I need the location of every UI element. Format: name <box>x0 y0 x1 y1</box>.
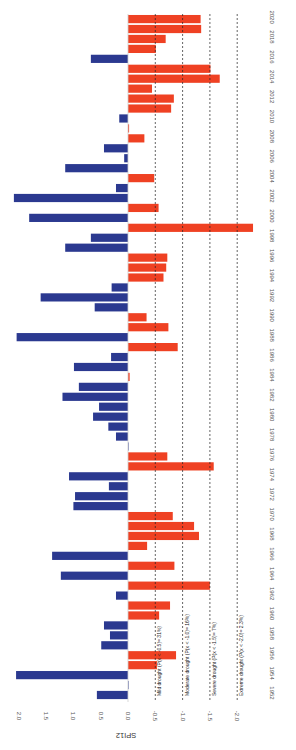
year-tick-label: 2008 <box>269 130 275 144</box>
spi-tick-label: -0.5 <box>152 711 158 722</box>
year-tick-label: 2014 <box>269 70 275 84</box>
bar-1958 <box>110 631 128 639</box>
year-tick-label: 1980 <box>269 408 275 422</box>
bar-2001 <box>128 204 159 212</box>
year-tick-label: 1992 <box>269 289 275 303</box>
spi-tick-label: 2.0 <box>16 712 22 721</box>
threshold-label: Severe drought (P(x < -1.5)= 7%) <box>211 622 217 696</box>
spi-tick-label: -1.0 <box>180 711 186 722</box>
bar-2014 <box>128 75 220 83</box>
bar-2003 <box>116 184 128 192</box>
spi-tick-label: -2.0 <box>234 711 240 722</box>
bar-1986 <box>111 353 128 361</box>
bar-1973 <box>109 482 128 490</box>
year-tick-label: 1998 <box>269 229 275 243</box>
spi-tick-label: -1.5 <box>207 711 213 722</box>
year-axis-ticks: 1952195419561958196019621964196619681970… <box>269 10 275 700</box>
year-tick-label: 2016 <box>269 50 275 64</box>
year-tick-label: 1984 <box>269 368 275 382</box>
bar-1965 <box>128 562 174 570</box>
threshold-label: Moderate drought (P(x < -1.0)= 16%) <box>184 614 190 696</box>
bar-1956 <box>128 651 176 659</box>
year-tick-label: 2012 <box>269 90 275 104</box>
bar-1991 <box>95 303 128 311</box>
spi-tick-label: 1.5 <box>43 712 49 721</box>
bar-1989 <box>128 323 168 331</box>
threshold-label: Mild drought (P(x < -0.5)= 31%) <box>156 626 162 696</box>
bar-2006 <box>124 154 128 162</box>
year-tick-label: 1974 <box>269 468 275 482</box>
y-axis-title: SPI12 <box>116 731 136 740</box>
bar-1971 <box>73 502 128 510</box>
bar-1967 <box>128 542 147 550</box>
bar-1974 <box>69 472 128 480</box>
year-tick-label: 1994 <box>269 269 275 283</box>
year-tick-label: 1990 <box>269 309 275 323</box>
bar-1961 <box>128 601 170 609</box>
bar-1978 <box>116 432 128 440</box>
bar-2005 <box>65 164 128 172</box>
year-tick-label: 1960 <box>269 607 275 621</box>
bar-1983 <box>79 383 128 391</box>
bar-1997 <box>65 244 128 252</box>
year-tick-label: 1996 <box>269 249 275 263</box>
bar-1998 <box>91 234 128 242</box>
bar-1979 <box>108 423 128 431</box>
bar-2012 <box>128 95 174 103</box>
year-tick-label: 1986 <box>269 348 275 362</box>
bar-1960 <box>128 611 159 619</box>
spi-tick-label: 1.0 <box>70 712 76 721</box>
bar-2016 <box>91 55 128 63</box>
bar-1990 <box>128 313 147 321</box>
bar-1994 <box>128 273 163 281</box>
bar-1980 <box>93 413 128 421</box>
bar-1972 <box>75 492 128 500</box>
bar-1985 <box>74 363 128 371</box>
bar-2019 <box>128 25 201 33</box>
year-tick-label: 1956 <box>269 647 275 661</box>
spi12-bar-chart: Mild drought (P(x < -0.5)= 31%)Moderate … <box>0 0 296 750</box>
bar-1976 <box>128 452 167 460</box>
year-tick-label: 1972 <box>269 488 275 502</box>
bar-1981 <box>99 403 128 411</box>
bar-1993 <box>112 283 128 291</box>
bar-2010 <box>119 114 128 122</box>
bar-2020 <box>128 15 201 23</box>
year-tick-label: 2004 <box>269 169 275 183</box>
bar-1992 <box>41 293 128 301</box>
bar-1999 <box>128 224 253 232</box>
chart-canvas: Mild drought (P(x < -0.5)= 31%)Moderate … <box>0 0 296 750</box>
bar-2018 <box>128 35 166 43</box>
year-tick-label: 1966 <box>269 547 275 561</box>
bar-1955 <box>128 661 157 669</box>
year-tick-label: 2010 <box>269 110 275 124</box>
bar-1995 <box>128 263 166 271</box>
bar-1963 <box>128 582 210 590</box>
year-tick-label: 1988 <box>269 328 275 342</box>
year-tick-label: 1954 <box>269 666 275 680</box>
bar-1970 <box>128 512 173 520</box>
threshold-label: Extreme drought (P(x < -2.0)= 2.3%) <box>238 615 244 696</box>
year-tick-label: 1976 <box>269 448 275 462</box>
bar-1988 <box>17 333 128 341</box>
bar-1982 <box>62 393 128 401</box>
year-tick-label: 2018 <box>269 30 275 44</box>
bar-1952 <box>97 691 128 699</box>
spi-tick-label: 0.5 <box>98 712 104 721</box>
bar-1996 <box>128 254 167 262</box>
bar-2011 <box>128 104 171 112</box>
bar-1962 <box>116 592 128 600</box>
bar-1954 <box>16 671 128 679</box>
year-tick-label: 1982 <box>269 388 275 402</box>
drought-threshold-lines: Mild drought (P(x < -0.5)= 31%)Moderate … <box>155 14 244 702</box>
bar-1964 <box>61 572 128 580</box>
year-tick-label: 2002 <box>269 189 275 203</box>
bar-1987 <box>128 343 178 351</box>
year-tick-label: 2020 <box>269 10 275 24</box>
spi-tick-label: 0.0 <box>125 712 131 721</box>
bar-2000 <box>29 214 128 222</box>
year-tick-label: 2000 <box>269 209 275 223</box>
year-tick-label: 1958 <box>269 627 275 641</box>
year-tick-label: 1952 <box>269 686 275 700</box>
bar-2004 <box>128 174 154 182</box>
